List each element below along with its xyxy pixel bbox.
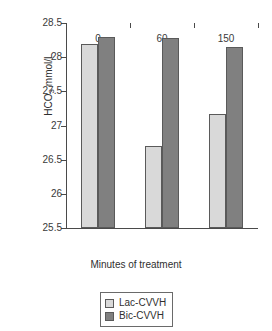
- y-axis-tick-label: 28.5: [43, 16, 62, 29]
- legend-item: Bic-CVVH: [105, 310, 166, 322]
- x-axis-tick-mark: [258, 23, 259, 28]
- legend-item-label: Lac-CVVH: [119, 297, 166, 309]
- legend-swatch-icon: [105, 299, 114, 308]
- y-axis-tick-label: 26.5: [43, 153, 62, 166]
- bar: [209, 114, 226, 228]
- y-axis-tick-label: 27.5: [43, 84, 62, 97]
- legend-item-label: Bic-CVVH: [119, 310, 164, 322]
- x-axis-tick-mark: [66, 23, 67, 28]
- x-axis-title: Minutes of treatment: [0, 258, 272, 271]
- x-axis-tick-mark: [130, 23, 131, 28]
- x-axis-tick-mark: [194, 23, 195, 28]
- bar: [98, 37, 115, 228]
- y-axis-tick-label: 26: [51, 187, 62, 200]
- legend-item: Lac-CVVH: [105, 297, 166, 309]
- bar-chart-figure: HCO3 mmol/L 28.52827.52726.52625.5 06015…: [0, 0, 272, 331]
- legend-swatch-icon: [105, 312, 114, 321]
- bar: [145, 146, 162, 228]
- y-axis-tick-label: 25.5: [43, 221, 62, 234]
- plot-area: 28.52827.52726.52625.5 060150: [66, 23, 258, 228]
- bar: [226, 47, 243, 228]
- y-axis-tick-label: 27: [51, 119, 62, 132]
- bar: [162, 38, 179, 228]
- x-axis-line: [66, 228, 258, 229]
- bar: [81, 44, 98, 229]
- chart-legend: Lac-CVVHBic-CVVH: [100, 292, 173, 327]
- x-axis-tick-label: 150: [218, 32, 235, 45]
- y-axis-tick-label: 28: [51, 50, 62, 63]
